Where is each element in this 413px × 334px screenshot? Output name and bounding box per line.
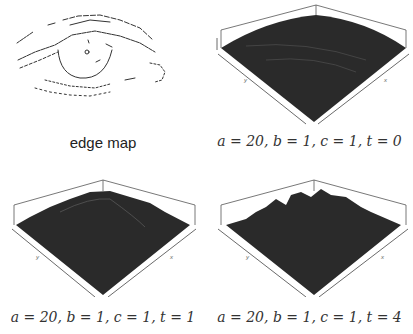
surface-plot-t4: y x: [206, 167, 413, 297]
x-axis-label: x: [169, 254, 174, 260]
surface-plot-t1-graphic: y x: [0, 167, 206, 297]
y-axis-label: y: [243, 77, 248, 83]
y-axis-label: y: [245, 254, 250, 260]
x-axis-label: x: [380, 254, 385, 260]
edge-map-panel: [0, 0, 206, 140]
surface-plot-t0: y x: [206, 0, 413, 130]
edge-map-caption: edge map: [0, 134, 206, 151]
surface-t4-caption: a = 20, b = 1, c = 1, t = 4: [206, 309, 413, 325]
surface-plot-t1: y x: [0, 167, 206, 297]
surface-plot-t4-graphic: y x: [206, 167, 413, 297]
surface-t1-caption: a = 20, b = 1, c = 1, t = 1: [0, 309, 206, 325]
surface-plot-t0-graphic: y x: [206, 0, 413, 130]
surface-t0-caption: a = 20, b = 1, c = 1, t = 0: [206, 133, 413, 149]
x-axis-label: x: [383, 77, 388, 83]
y-axis-label: y: [35, 254, 40, 260]
edge-map-image: [0, 0, 206, 110]
